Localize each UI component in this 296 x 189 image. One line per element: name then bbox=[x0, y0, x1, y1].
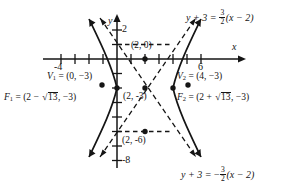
label-center: (2, -3) bbox=[123, 92, 147, 102]
focus2-radicand: 13 bbox=[221, 92, 232, 103]
focus1-close: , −3) bbox=[58, 92, 76, 102]
y-axis-label: y bbox=[108, 16, 112, 26]
asymptote-lower-minus: − bbox=[214, 169, 220, 180]
asymptote-upper-denominator: 2 bbox=[219, 18, 225, 26]
focus1-radicand: 13 bbox=[48, 92, 59, 103]
asymptote-lower-slope-fraction: 32 bbox=[220, 166, 226, 182]
point-vertex1 bbox=[114, 85, 119, 90]
asymptote-upper-lhs: y + 3 = bbox=[186, 12, 219, 23]
x-axis-label: x bbox=[232, 42, 236, 52]
focus1-open-paren: (2 − bbox=[23, 92, 41, 102]
label-vertex2: V2 = (4, −3) bbox=[177, 72, 222, 82]
asymptote-upper-slope-fraction: 32 bbox=[219, 9, 225, 25]
y-tick-label-2: 2 bbox=[122, 24, 127, 34]
asymptote-lower-denominator: 2 bbox=[220, 175, 226, 183]
vertex2-equals: = bbox=[186, 71, 196, 81]
asymptote-upper-rhs: (x − 2) bbox=[226, 12, 254, 23]
point-focus1 bbox=[99, 82, 104, 87]
label-vertex1: V1 = (0, −3) bbox=[47, 72, 92, 82]
x-axis-arrowhead bbox=[238, 55, 246, 62]
vertex1-coords: (0, −3) bbox=[66, 71, 92, 81]
point-2-0 bbox=[142, 56, 147, 61]
vertex1-equals: = bbox=[56, 71, 66, 81]
hyperbola-right-branch bbox=[173, 19, 201, 157]
point-vertex2 bbox=[170, 85, 175, 90]
asymptote-lower-lhs: y + 3 = bbox=[181, 169, 214, 180]
label-asymptote-upper-equation: y + 3 = 32(x − 2) bbox=[186, 9, 254, 25]
label-point-2-0: (2, 0) bbox=[131, 41, 152, 51]
label-point-2-neg6: (2, -6) bbox=[122, 136, 146, 146]
point-2-neg6 bbox=[142, 129, 147, 134]
label-focus1: F1 = (2 − √13, −3) bbox=[4, 92, 76, 103]
y-tick-label--8: -8 bbox=[122, 155, 130, 165]
asymptote-arrow-ll bbox=[100, 150, 107, 158]
point-center-2-neg3 bbox=[142, 85, 147, 90]
focus2-equals: = bbox=[186, 92, 196, 102]
vertex2-coords: (4, −3) bbox=[196, 71, 222, 81]
sqrt-icon-focus1: √13 bbox=[41, 92, 58, 103]
asymptote-arrow-ul bbox=[100, 18, 107, 26]
sqrt-icon-focus2: √13 bbox=[214, 92, 231, 103]
focus1-equals: = bbox=[13, 92, 23, 102]
label-asymptote-lower-equation: y + 3 = −32(x − 2) bbox=[181, 166, 254, 182]
y-axis-arrowhead bbox=[113, 14, 120, 22]
asymptote-lower-rhs: (x − 2) bbox=[226, 169, 254, 180]
focus2-close: , −3) bbox=[231, 92, 249, 102]
hyperbola-figure: x y -4 6 2 -8 (2, 0) (2, -3) (2, -6) V1 … bbox=[0, 0, 296, 189]
label-focus2: F2 = (2 + √13, −3) bbox=[177, 92, 249, 103]
focus2-open-paren: (2 + bbox=[196, 92, 214, 102]
point-focus2 bbox=[185, 82, 190, 87]
